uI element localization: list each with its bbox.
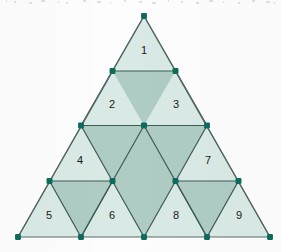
vertex-dot-v-row2-center bbox=[141, 123, 147, 129]
triangle-number-label-4: 4 bbox=[77, 154, 83, 166]
vertex-dot-v-row2-left bbox=[78, 123, 84, 129]
triangle-subdivision-diagram: 123456789 bbox=[0, 0, 281, 252]
vertex-dot-v-mid-right-1 bbox=[173, 68, 179, 74]
vertex-dot-v-row2-right bbox=[204, 123, 210, 129]
triangle-number-label-3: 3 bbox=[173, 98, 179, 110]
vertex-dot-v-mid-left-1 bbox=[110, 68, 116, 74]
vertex-dot-v-row4-c bbox=[141, 234, 147, 240]
vertex-dot-v-apex bbox=[141, 13, 147, 19]
triangle-number-label-7: 7 bbox=[205, 154, 211, 166]
vertex-dot-v-row4-d bbox=[204, 234, 210, 240]
vertex-dot-v-row4-b bbox=[78, 234, 84, 240]
vertex-dot-v-row3-a bbox=[47, 178, 53, 184]
vertex-dot-v-row3-c bbox=[173, 178, 179, 184]
triangle-number-label-6: 6 bbox=[109, 209, 115, 221]
triangle-number-label-9: 9 bbox=[236, 209, 242, 221]
triangle-number-label-8: 8 bbox=[173, 209, 179, 221]
triangle-number-label-5: 5 bbox=[46, 209, 52, 221]
vertex-dot-v-row4-a bbox=[15, 234, 21, 240]
vertex-dot-v-row3-d bbox=[236, 178, 242, 184]
vertex-dot-v-row4-e bbox=[267, 234, 273, 240]
figure-canvas: 123456789 bbox=[0, 0, 281, 252]
triangle-number-label-1: 1 bbox=[141, 44, 147, 56]
triangle-number-label-2: 2 bbox=[109, 98, 115, 110]
vertex-dot-v-row3-b bbox=[110, 178, 116, 184]
